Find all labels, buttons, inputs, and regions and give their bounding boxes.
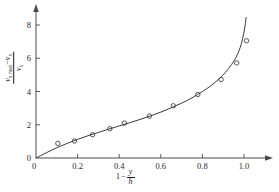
y-tick-label: 0 xyxy=(27,153,31,163)
y-num-minus: − xyxy=(3,60,12,65)
x-tick-label: 0.8 xyxy=(197,161,208,171)
chart-figure: 02468 00.20.40.60.81.0 vx max−vx vx 1− y… xyxy=(0,0,279,192)
y-tick-label: 8 xyxy=(27,20,31,30)
data-point-markers xyxy=(56,39,249,146)
data-point xyxy=(235,61,239,65)
y-num-v1: v xyxy=(3,78,12,82)
x-axis-arrowhead xyxy=(265,155,273,161)
y-tick-label: 6 xyxy=(27,53,31,63)
y-den-sub: x xyxy=(17,65,23,68)
y-tick-label: 4 xyxy=(27,87,32,97)
x-tick-label: 0.2 xyxy=(72,161,83,171)
y-den-v: v xyxy=(14,67,23,71)
x-label-minus: − xyxy=(121,172,126,181)
y-num-sub1: x max xyxy=(7,65,13,78)
data-point xyxy=(56,141,60,145)
x-tick-label: 1.0 xyxy=(239,161,250,171)
y-num-v2: v xyxy=(3,57,12,61)
y-axis-tick-labels: 02468 xyxy=(27,20,32,163)
y-axis-ticks xyxy=(36,25,40,125)
y-axis-numerator: vx max−vx xyxy=(4,52,14,84)
x-tick-label: 0.6 xyxy=(155,161,166,171)
fitted-curve xyxy=(36,18,246,158)
x-axis-ticks xyxy=(78,154,244,158)
axes-group xyxy=(33,4,273,161)
scatter-plot-canvas: 02468 00.20.40.60.81.0 xyxy=(0,0,279,192)
x-label-one: 1 xyxy=(116,172,120,181)
data-point xyxy=(244,39,248,43)
y-num-sub2: x xyxy=(7,54,13,57)
y-axis-label: vx max−vx vx xyxy=(4,32,24,104)
x-axis-label: 1− y h xyxy=(116,168,135,186)
x-axis-fraction: y h xyxy=(127,168,135,186)
y-axis-denominator: vx xyxy=(15,52,24,84)
origin-tick-label: 0 xyxy=(32,161,36,171)
x-axis-tick-labels: 00.20.40.60.81.0 xyxy=(32,161,249,171)
x-den: h xyxy=(127,178,135,187)
data-point xyxy=(219,77,223,81)
y-tick-label: 2 xyxy=(27,120,31,130)
y-axis-fraction: vx max−vx vx xyxy=(4,52,24,84)
y-axis-arrowhead xyxy=(33,4,39,12)
